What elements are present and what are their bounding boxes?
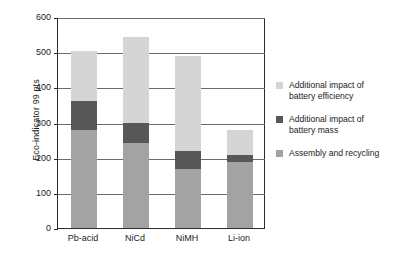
bar-segment	[175, 56, 201, 151]
bar-segment	[71, 101, 97, 130]
y-tick-mark	[54, 88, 58, 89]
y-axis-title-container: Eco-indicator 99 pts	[6, 55, 20, 165]
y-tick-mark	[54, 229, 58, 230]
bar-segment	[227, 155, 253, 162]
x-axis-label-pb-acid: Pb-acid	[53, 233, 113, 243]
y-tick-mark	[54, 194, 58, 195]
legend-label: Additional impact of	[289, 114, 404, 125]
legend-label-line2: battery efficiency	[289, 91, 404, 102]
y-tick-mark	[54, 124, 58, 125]
legend-swatch-icon	[276, 82, 283, 89]
bar-segment	[123, 37, 149, 123]
legend-label: Assembly and recycling	[289, 148, 404, 159]
legend-label-line2: battery mass	[289, 125, 404, 136]
legend-swatch-icon	[276, 116, 283, 123]
bar-nimh	[175, 56, 201, 228]
y-tick-label: 600	[17, 13, 51, 22]
y-tick-label: 0	[17, 224, 51, 233]
legend-swatch-icon	[276, 150, 283, 157]
bar-segment	[227, 162, 253, 228]
y-tick-label: 200	[17, 154, 51, 163]
legend: Additional impact ofbattery efficiencyAd…	[276, 80, 404, 170]
bar-segment	[175, 151, 201, 169]
bar-segment	[175, 169, 201, 228]
chart-container: Eco-indicator 99 pts 0100200300400500600…	[0, 0, 407, 257]
bar-pb-acid	[71, 51, 97, 228]
legend-label: Additional impact of	[289, 80, 404, 91]
x-axis-label-li-ion: Li-ion	[209, 233, 269, 243]
bar-segment	[123, 123, 149, 143]
y-tick-label: 500	[17, 48, 51, 57]
x-axis-label-nimh: NiMH	[157, 233, 217, 243]
y-tick-label: 400	[17, 83, 51, 92]
gridline	[58, 18, 265, 19]
y-tick-label: 100	[17, 189, 51, 198]
y-tick-mark	[54, 18, 58, 19]
bar-segment	[227, 130, 253, 155]
plot-area: 0100200300400500600	[57, 18, 265, 229]
y-tick-label: 300	[17, 119, 51, 128]
bar-li-ion	[227, 130, 253, 228]
bar-nicd	[123, 37, 149, 228]
legend-item[interactable]: Additional impact ofbattery mass	[276, 114, 404, 137]
bar-segment	[71, 51, 97, 101]
x-axis-label-nicd: NiCd	[105, 233, 165, 243]
bar-segment	[123, 143, 149, 228]
bar-segment	[71, 130, 97, 228]
legend-item[interactable]: Additional impact ofbattery efficiency	[276, 80, 404, 103]
y-tick-mark	[54, 53, 58, 54]
y-tick-mark	[54, 159, 58, 160]
legend-item[interactable]: Assembly and recycling	[276, 148, 404, 159]
